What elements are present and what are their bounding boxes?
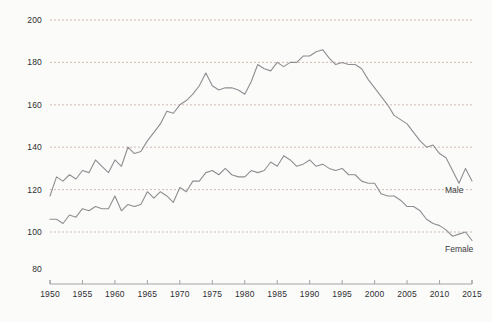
x-tick-label-1960: 1960 bbox=[105, 289, 125, 299]
x-tick-label-2015: 2015 bbox=[462, 289, 482, 299]
x-tick-label-2005: 2005 bbox=[397, 289, 417, 299]
series-labels-group: MaleFemale bbox=[445, 185, 474, 254]
x-tick-label-2000: 2000 bbox=[365, 289, 385, 299]
y-tick-label-200: 200 bbox=[27, 15, 42, 25]
y-tick-label-180: 180 bbox=[27, 57, 42, 67]
x-tick-label-1950: 1950 bbox=[40, 289, 60, 299]
series-line-male bbox=[50, 50, 472, 196]
series-label-male: Male bbox=[445, 185, 464, 195]
x-axis-labels-group: 1950195519601965197019751980198519901995… bbox=[40, 289, 482, 299]
x-tick-label-1955: 1955 bbox=[73, 289, 93, 299]
x-tick-label-1990: 1990 bbox=[300, 289, 320, 299]
series-label-female: Female bbox=[445, 244, 474, 254]
x-axis-line bbox=[50, 280, 472, 284]
y-tick-label-160: 160 bbox=[27, 100, 42, 110]
x-tick-label-1985: 1985 bbox=[267, 289, 287, 299]
line-chart: 80100120140160180200 1950195519601965197… bbox=[0, 0, 492, 322]
x-tick-label-1965: 1965 bbox=[138, 289, 158, 299]
x-tick-label-1980: 1980 bbox=[235, 289, 255, 299]
y-axis-labels-group: 80100120140160180200 bbox=[27, 15, 42, 274]
series-line-female bbox=[50, 156, 472, 241]
x-tick-label-2010: 2010 bbox=[430, 289, 450, 299]
y-tick-label-140: 140 bbox=[27, 142, 42, 152]
y-tick-label-120: 120 bbox=[27, 185, 42, 195]
x-tick-label-1995: 1995 bbox=[332, 289, 352, 299]
y-tick-label-100: 100 bbox=[27, 227, 42, 237]
y-tick-label-80: 80 bbox=[32, 264, 42, 274]
chart-canvas: 80100120140160180200 1950195519601965197… bbox=[0, 0, 492, 322]
data-series-group bbox=[50, 50, 472, 241]
x-axis-group bbox=[50, 280, 472, 284]
x-tick-label-1975: 1975 bbox=[202, 289, 222, 299]
x-tick-label-1970: 1970 bbox=[170, 289, 190, 299]
